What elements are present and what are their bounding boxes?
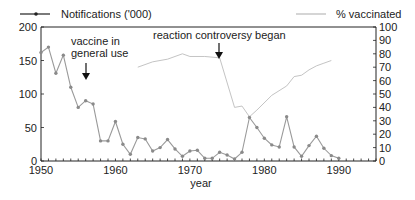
notifications-point — [91, 102, 94, 105]
notifications-point — [106, 139, 109, 142]
annotation-vaccine-line2: general use — [71, 47, 129, 59]
vaccinated-line — [138, 54, 332, 117]
notifications-point — [322, 147, 325, 150]
notifications-point — [62, 53, 65, 56]
annotation-vaccine: vaccine in general use — [71, 35, 129, 80]
notifications-point — [211, 157, 214, 160]
notifications-point — [248, 116, 251, 119]
right-y-tick-label: 40 — [379, 101, 391, 113]
right-y-tick-label: 90 — [379, 34, 391, 46]
notifications-point — [278, 145, 281, 148]
notifications-point — [166, 138, 169, 141]
x-tick-label: 1980 — [252, 164, 276, 176]
right-y-tick-label: 100 — [379, 21, 397, 33]
notifications-point — [129, 153, 132, 156]
notifications-point — [121, 143, 124, 146]
right-y-tick-label: 80 — [379, 48, 391, 60]
legend-vaccinated-label: % vaccinated — [336, 8, 401, 20]
notifications-point — [39, 51, 42, 54]
annotation-controversy: reaction controversy began — [153, 29, 286, 59]
right-y-tick-label: 50 — [379, 88, 391, 100]
notifications-point — [158, 146, 161, 149]
notifications-point — [307, 144, 310, 147]
right-y-tick-label: 70 — [379, 61, 391, 73]
annotation-vaccine-line1: vaccine in — [71, 35, 120, 47]
left-y-tick-label: 200 — [19, 21, 37, 33]
notifications-point — [196, 149, 199, 152]
notifications-point — [69, 86, 72, 89]
notifications-point — [270, 143, 273, 146]
legend-notifications-label: Notifications ('000) — [61, 8, 152, 20]
notifications-point — [330, 154, 333, 157]
notifications-point — [144, 137, 147, 140]
notifications-point — [300, 155, 303, 158]
right-y-tick-label: 0 — [379, 155, 385, 167]
notifications-point — [203, 157, 206, 160]
annotation-vaccine-arrowhead — [82, 73, 90, 80]
notifications-point — [292, 145, 295, 148]
x-axis-title: year — [190, 177, 212, 189]
notifications-point — [263, 137, 266, 140]
right-y-axis-ticks: 0102030405060708090100 — [373, 21, 397, 167]
notifications-point — [54, 72, 57, 75]
notifications-point — [47, 45, 50, 48]
right-y-tick-label: 20 — [379, 128, 391, 140]
notifications-point — [255, 126, 258, 129]
notifications-point — [240, 151, 243, 154]
notifications-point — [151, 149, 154, 152]
x-tick-label: 1960 — [103, 164, 127, 176]
notifications-point — [285, 115, 288, 118]
x-tick-label: 1970 — [178, 164, 202, 176]
notifications-point — [225, 153, 228, 156]
notifications-point — [315, 135, 318, 138]
right-y-tick-label: 30 — [379, 115, 391, 127]
notifications-point — [337, 157, 340, 160]
left-y-tick-label: 150 — [19, 55, 37, 67]
notifications-point — [77, 106, 80, 109]
notifications-point — [218, 151, 221, 154]
notifications-point — [188, 149, 191, 152]
right-y-tick-label: 60 — [379, 75, 391, 87]
left-y-tick-label: 100 — [19, 88, 37, 100]
legend: Notifications ('000) % vaccinated — [20, 8, 401, 20]
notifications-point — [233, 157, 236, 160]
annotation-controversy-text: reaction controversy began — [153, 29, 286, 41]
notifications-point — [136, 136, 139, 139]
chart: Notifications ('000) % vaccinated 195019… — [0, 0, 415, 200]
notifications-point — [181, 155, 184, 158]
series-notifications — [39, 45, 340, 160]
notifications-point — [114, 120, 117, 123]
legend-notifications-marker — [34, 12, 38, 16]
series-vaccinated — [138, 54, 332, 117]
notifications-point — [173, 147, 176, 150]
notifications-point — [99, 139, 102, 142]
left-y-tick-label: 50 — [25, 122, 37, 134]
x-tick-label: 1990 — [327, 164, 351, 176]
left-y-tick-label: 0 — [31, 155, 37, 167]
notifications-point — [84, 99, 87, 102]
left-y-axis-ticks: 050100150200 — [19, 21, 44, 167]
right-y-tick-label: 10 — [379, 142, 391, 154]
